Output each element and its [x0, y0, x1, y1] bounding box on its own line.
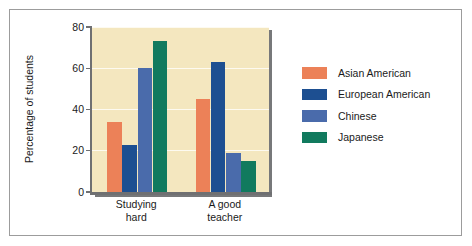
bar — [153, 41, 168, 192]
gridline — [92, 68, 269, 69]
y-axis-title: Percentage of students — [23, 39, 35, 179]
bar — [196, 99, 211, 192]
bar — [122, 145, 137, 192]
y-axis-tick-mark — [86, 191, 91, 192]
y-axis-tick-label: 0 — [56, 187, 84, 198]
legend-color-swatch — [302, 89, 327, 101]
gridline — [92, 109, 269, 110]
chart-figure: Percentage of students 020406080 Studyin… — [0, 0, 472, 246]
legend-label: Asian American — [338, 67, 411, 79]
legend-item: Asian American — [302, 62, 430, 84]
legend-label: European American — [338, 88, 430, 100]
x-axis-tick-label-line: A good — [170, 198, 280, 211]
legend-color-swatch — [302, 132, 327, 144]
bar — [241, 161, 256, 192]
y-axis-tick-label: 80 — [56, 22, 84, 33]
legend-color-swatch — [302, 67, 327, 79]
y-axis-tick-label: 60 — [56, 63, 84, 74]
bar — [211, 62, 226, 192]
y-axis-tick-mark — [86, 109, 91, 110]
x-axis-line — [90, 192, 272, 195]
y-axis-tick-mark — [86, 26, 91, 27]
bar — [226, 153, 241, 192]
y-axis-tick-labels: 020406080 — [52, 0, 84, 246]
y-axis-tick-mark — [86, 150, 91, 151]
bar — [138, 68, 153, 192]
bar — [107, 122, 122, 192]
x-axis-tick-label-line: teacher — [170, 211, 280, 224]
gridline — [92, 27, 269, 28]
x-axis-tick-label: A goodteacher — [170, 198, 280, 223]
legend-label: Chinese — [338, 110, 377, 122]
legend-label: Japanese — [338, 131, 384, 143]
legend-item: Chinese — [302, 105, 430, 127]
y-axis-tick-mark — [86, 68, 91, 69]
legend-color-swatch — [302, 110, 327, 122]
legend-item: Japanese — [302, 127, 430, 149]
plot-area — [92, 27, 269, 192]
y-axis-tick-label: 40 — [56, 104, 84, 115]
legend-item: European American — [302, 84, 430, 106]
legend: Asian AmericanEuropean AmericanChineseJa… — [302, 62, 430, 148]
y-axis-tick-label: 20 — [56, 145, 84, 156]
